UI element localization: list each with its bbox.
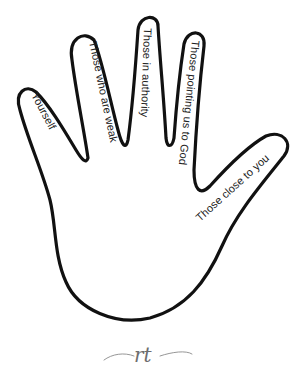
signature-monogram: rt [104,343,192,367]
signature-flourish-right [160,352,192,356]
prayer-hand-illustration: Yourself Those who are weak Those in aut… [0,0,299,387]
signature-flourish-left [104,354,134,360]
signature-text: rt [134,343,153,367]
